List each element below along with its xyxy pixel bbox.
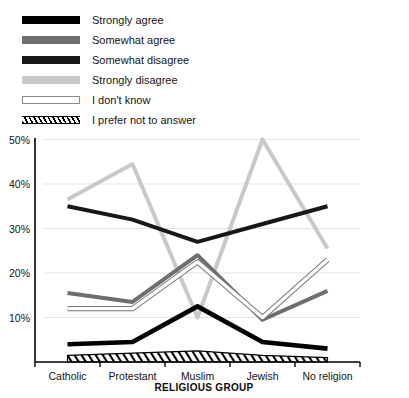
legend-item-dont-know: I don't know bbox=[22, 90, 352, 110]
legend-swatch-hatched-icon bbox=[22, 116, 80, 124]
x-axis-title: RELIGIOUS GROUP bbox=[155, 382, 254, 393]
series-line-somewhat-disagree bbox=[68, 206, 328, 242]
legend-swatch-solid-gray-icon bbox=[22, 36, 80, 44]
legend-label: Somewhat disagree bbox=[92, 54, 189, 66]
axis-lines bbox=[35, 138, 360, 367]
x-axis-tick-labels: CatholicProtestantMuslimJewishNo religio… bbox=[49, 370, 353, 382]
legend-item-prefer-not-to-answer: I prefer not to answer bbox=[22, 110, 352, 130]
series-line-strongly-disagree bbox=[68, 140, 328, 318]
x-axis-tick-label: Jewish bbox=[246, 370, 278, 382]
series-line-i-don-t-know bbox=[68, 260, 328, 318]
legend-item-somewhat-disagree: Somewhat disagree bbox=[22, 50, 352, 70]
chart-container: Strongly agree Somewhat agree Somewhat d… bbox=[0, 0, 409, 398]
series-line-i-prefer-not-to-answer bbox=[68, 351, 328, 362]
y-axis-tick-label: 40% bbox=[9, 178, 30, 190]
x-axis-tick-label: No religion bbox=[302, 370, 352, 382]
legend-label: Strongly disagree bbox=[92, 74, 178, 86]
legend-swatch-solid-black-icon bbox=[22, 16, 80, 24]
legend-label: Strongly agree bbox=[92, 14, 164, 26]
x-axis-tick-label: Protestant bbox=[109, 370, 157, 382]
legend-swatch-solid-darkgray-icon bbox=[22, 56, 80, 64]
series-line-somewhat-agree bbox=[68, 255, 328, 320]
series-line-strongly-agree bbox=[68, 306, 328, 348]
series-line-i-don-t-know-outline bbox=[68, 260, 328, 318]
y-axis-tick-labels: 10%20%30%40%50% bbox=[9, 134, 30, 324]
x-axis-tick-label: Catholic bbox=[49, 370, 87, 382]
gridlines bbox=[43, 140, 360, 318]
y-axis-tick-label: 10% bbox=[9, 312, 30, 324]
legend-item-strongly-disagree: Strongly disagree bbox=[22, 70, 352, 90]
y-axis-tick-label: 30% bbox=[9, 223, 30, 235]
legend-label: I don't know bbox=[92, 94, 150, 106]
legend-label: I prefer not to answer bbox=[92, 114, 196, 126]
legend-swatch-outline-white-icon bbox=[22, 96, 80, 104]
legend-item-strongly-agree: Strongly agree bbox=[22, 10, 352, 30]
x-axis-tick-label: Muslim bbox=[181, 370, 215, 382]
legend-swatch-solid-lightgray-icon bbox=[22, 76, 80, 84]
legend-label: Somewhat agree bbox=[92, 34, 175, 46]
y-axis-tick-label: 50% bbox=[9, 134, 30, 146]
legend-item-somewhat-agree: Somewhat agree bbox=[22, 30, 352, 50]
y-axis-tick-label: 20% bbox=[9, 267, 30, 279]
series-lines bbox=[68, 140, 328, 363]
chart-legend: Strongly agree Somewhat agree Somewhat d… bbox=[22, 10, 352, 130]
